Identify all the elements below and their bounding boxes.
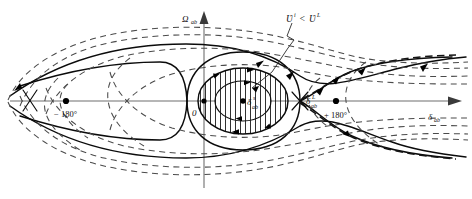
dot-origin	[201, 98, 206, 103]
tick-label-minus-180: − 180°	[54, 109, 77, 119]
separatrix-branch-lower-right	[300, 101, 452, 158]
velocity-inequality-annotation: Ʋ i < Ʋ L	[286, 12, 321, 24]
dot-minus-180	[63, 98, 69, 104]
y-axis-label-symbol: Ω	[182, 14, 189, 24]
heavy-dashed-group	[300, 55, 456, 159]
y-axis-label-subscript: ab	[191, 19, 197, 25]
saddle-point-superscript: L	[311, 94, 316, 100]
x-axis-label: δ ab	[428, 112, 440, 123]
separatrix-incoming-upper-left	[20, 62, 187, 101]
flow-arrow-5	[256, 61, 264, 69]
annotation-sup1: i	[294, 12, 296, 18]
stable-equilibrium-subscript: ab	[252, 104, 258, 110]
flow-arrow-3	[316, 87, 324, 96]
separatrix-branch-upper-right	[300, 57, 452, 101]
annotation-v2: Ʋ	[309, 14, 316, 24]
annotation-v1: Ʋ	[286, 14, 293, 24]
x-axis-label-symbol: δ	[428, 112, 433, 122]
annotation-sup2: L	[316, 12, 321, 18]
dot-plus-180	[333, 98, 339, 104]
saddle-point-subscript: ab	[311, 103, 317, 109]
origin-label: 0	[192, 108, 197, 118]
dot-stable-equilibrium	[240, 98, 246, 104]
tick-label-plus-180: + 180°	[324, 110, 347, 120]
y-axis-arrowhead	[200, 11, 209, 24]
y-axis-label: Ω ab	[182, 14, 197, 25]
phase-plane-figure: Ω ab δ ab 0 − 180° + 180° δ s ab δ L ab …	[0, 0, 472, 199]
x-axis-label-subscript: ab	[434, 117, 440, 123]
annotation-relation: <	[299, 14, 305, 24]
dashed-lower-4	[110, 72, 468, 137]
phase-plane-svg: Ω ab δ ab 0 − 180° + 180° δ s ab δ L ab …	[0, 0, 472, 199]
flow-arrow-6	[420, 64, 428, 73]
x-axis-arrowhead	[448, 97, 462, 106]
